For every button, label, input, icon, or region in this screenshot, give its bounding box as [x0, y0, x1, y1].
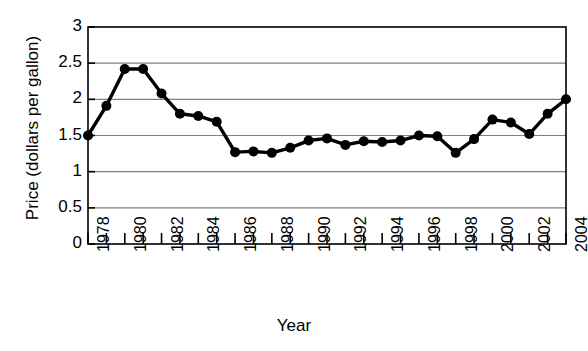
- x-tick-label: 1978: [95, 216, 113, 252]
- y-tick-label: 3: [73, 16, 82, 36]
- data-point: [193, 111, 203, 121]
- x-tick-label: 1980: [132, 216, 150, 252]
- x-tick-label: 1984: [205, 216, 223, 252]
- chart-canvas: [0, 0, 588, 351]
- x-tick-label: 1988: [279, 216, 297, 252]
- data-point: [469, 134, 479, 144]
- y-axis-title: Price (dollars per gallon): [23, 3, 43, 253]
- data-point: [322, 133, 332, 143]
- data-point: [285, 143, 295, 153]
- x-tick-label: 1992: [352, 216, 370, 252]
- data-point: [157, 89, 167, 99]
- x-tick-label: 1982: [169, 216, 187, 252]
- data-point: [377, 137, 387, 147]
- data-point: [212, 117, 222, 127]
- y-tick-label: 0: [73, 233, 82, 253]
- data-point: [561, 94, 571, 104]
- data-point: [83, 131, 93, 141]
- data-point: [138, 64, 148, 74]
- data-point: [506, 117, 516, 127]
- data-point: [304, 136, 314, 146]
- x-tick-label: 1998: [463, 216, 481, 252]
- data-point: [101, 101, 111, 111]
- y-tick-label: 0.5: [58, 197, 82, 217]
- data-point: [230, 147, 240, 157]
- data-point: [414, 131, 424, 141]
- x-tick-label: 1990: [316, 216, 334, 252]
- gasoline-price-line-chart: [0, 0, 588, 351]
- x-axis-title: Year: [0, 316, 588, 336]
- y-tick-label: 2.5: [58, 52, 82, 72]
- y-tick-label: 1.5: [58, 125, 82, 145]
- y-tick-label: 2: [73, 88, 82, 108]
- x-tick-label: 2000: [499, 216, 517, 252]
- x-tick-label: 1996: [426, 216, 444, 252]
- data-point: [175, 109, 185, 119]
- x-tick-label: 2004: [573, 216, 588, 252]
- data-point: [120, 64, 130, 74]
- y-tick-label: 1: [73, 161, 82, 181]
- data-point: [359, 136, 369, 146]
- data-point: [340, 140, 350, 150]
- data-point: [432, 131, 442, 141]
- data-point: [248, 146, 258, 156]
- data-point: [524, 129, 534, 139]
- data-markers: [83, 64, 571, 158]
- x-tick-label: 1994: [389, 216, 407, 252]
- data-point: [487, 115, 497, 125]
- data-point: [267, 148, 277, 158]
- data-point: [396, 136, 406, 146]
- x-tick-label: 1986: [242, 216, 260, 252]
- data-point: [451, 148, 461, 158]
- x-tick-label: 2002: [536, 216, 554, 252]
- data-point: [543, 109, 553, 119]
